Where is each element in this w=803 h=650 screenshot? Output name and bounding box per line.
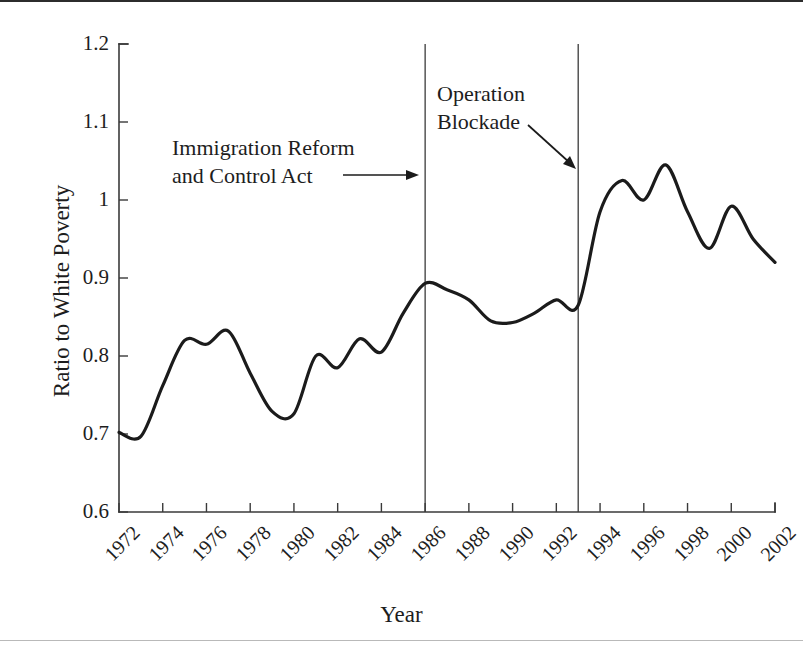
y-tick-marks bbox=[119, 44, 128, 512]
y-tick-label-1.2: 1.2 bbox=[41, 33, 109, 54]
y-tick-label-1.1: 1.1 bbox=[41, 111, 109, 132]
annotation-immigration-reform-and-control-act: Immigration Reform and Control Act bbox=[172, 134, 412, 190]
y-axis-title: Ratio to White Poverty bbox=[49, 141, 75, 441]
page-bottom-rule bbox=[0, 640, 803, 641]
x-tick-marks bbox=[119, 503, 775, 512]
poverty-ratio-line bbox=[119, 165, 775, 439]
annotation-operation-blockade: Operation Blockade bbox=[437, 80, 612, 136]
x-axis-title: Year bbox=[0, 602, 803, 628]
chart-figure: 0.60.70.80.911.11.2 19721974197619781980… bbox=[0, 0, 803, 650]
y-tick-label-0.6: 0.6 bbox=[41, 501, 109, 522]
